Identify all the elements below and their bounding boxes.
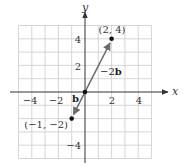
svg-text:−2: −2: [49, 95, 64, 106]
point-origin: [83, 90, 88, 95]
point-2-4: [109, 37, 114, 42]
svg-text:4: 4: [136, 95, 142, 106]
x-axis-label: x: [172, 85, 179, 98]
svg-text:−4: −4: [66, 140, 81, 151]
point-label-2-4: (2, 4): [99, 24, 126, 35]
svg-text:2: 2: [75, 61, 81, 72]
point-minus1-minus2: [69, 116, 74, 121]
svg-text:2: 2: [109, 95, 115, 106]
vector-label-b: b: [72, 93, 79, 104]
vector-label-minus-2b: −2b: [100, 66, 122, 77]
svg-text:4: 4: [75, 34, 81, 45]
svg-text:−4: −4: [23, 95, 38, 106]
coordinate-plane: x y −4 −2 2 4 4 2 −4 (2, 4) (−1, −2) −2b…: [0, 0, 184, 167]
point-label-minus1-minus2: (−1, −2): [24, 119, 68, 130]
y-axis-label: y: [81, 1, 89, 14]
